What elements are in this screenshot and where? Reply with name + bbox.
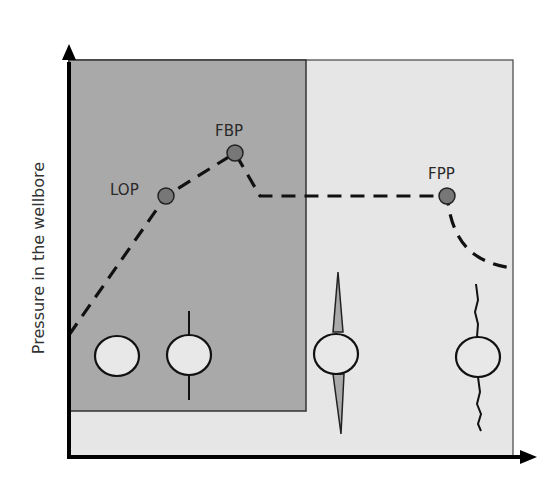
lop-marker bbox=[158, 188, 174, 204]
borehole-fracture-propagation-icon bbox=[456, 337, 500, 377]
fpp-marker bbox=[439, 188, 455, 204]
fbp-label: FBP bbox=[215, 122, 243, 140]
lop-label: LOP bbox=[110, 181, 139, 199]
leak-off-test-diagram: LOP FBP FPP bbox=[0, 0, 556, 481]
x-axis-arrow-icon bbox=[520, 450, 537, 464]
borehole-fracture-initiation-icon bbox=[167, 335, 211, 375]
y-axis-arrow-icon bbox=[62, 44, 76, 60]
fbp-marker bbox=[227, 145, 243, 161]
y-axis-label: Pressure in the wellbore bbox=[29, 162, 48, 354]
fpp-label: FPP bbox=[428, 165, 455, 183]
borehole-fracture-opening-icon bbox=[314, 334, 358, 374]
borehole-intact-icon bbox=[95, 336, 139, 376]
